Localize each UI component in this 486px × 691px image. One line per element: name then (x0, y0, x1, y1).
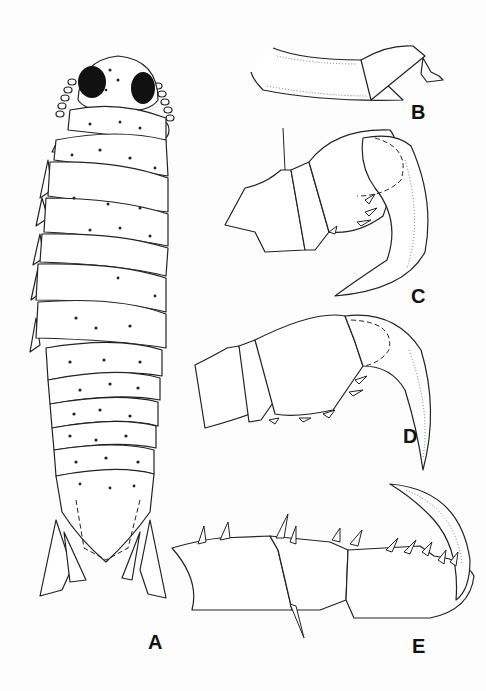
panel-b-appendage: B (243, 0, 486, 120)
pereopod-d-drawing (195, 310, 486, 480)
panel-d-pereopod: D (195, 310, 486, 480)
eye-left (78, 66, 106, 98)
panel-label-b: B (411, 102, 425, 122)
panel-label-d: D (403, 426, 417, 446)
eye-right (131, 72, 155, 104)
pleonites (46, 342, 162, 476)
pereonites (36, 106, 168, 348)
appendage-b-drawing (243, 0, 486, 120)
panel-label-c: C (411, 286, 425, 306)
panel-e-pereopod: E (170, 470, 486, 650)
panel-c-pereopod: C (225, 120, 486, 310)
pereopod-c-drawing (225, 120, 486, 310)
pereopod-e-drawing (170, 470, 486, 650)
uropod-right (140, 520, 166, 598)
panel-label-e: E (412, 636, 425, 656)
panel-label-a: A (148, 632, 162, 652)
